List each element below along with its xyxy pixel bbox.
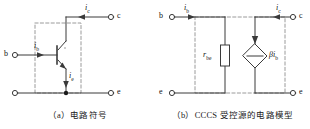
current-label-ie: ie <box>69 71 74 82</box>
current-label-ic: ic <box>85 3 90 14</box>
panel-b-caption: （b）CCCS 受控源的电路模型 <box>155 108 310 120</box>
emitter-junction-dot <box>64 91 68 95</box>
ib-arrow-icon <box>188 14 195 20</box>
ic-arrow-icon <box>273 14 280 20</box>
collector-slant <box>58 41 66 50</box>
current-label-ib: ib <box>184 3 189 14</box>
terminal-label-e: e <box>117 87 121 96</box>
terminal-b-node <box>169 14 174 19</box>
terminal-e-node <box>108 90 113 95</box>
terminal-c-node <box>108 14 113 19</box>
terminal-e-left-node <box>169 90 174 95</box>
terminal-b-node <box>12 52 17 57</box>
figure-root: b c e ib ic ie （a）电路符号 <box>0 0 310 129</box>
ie-arrow-icon <box>63 81 69 88</box>
terminal-c-node <box>290 14 295 19</box>
terminal-e-right-node <box>290 90 295 95</box>
ic-arrow-icon <box>78 14 85 20</box>
terminal-label-c: c <box>299 11 303 20</box>
panel-cccs-model: b c e e ib ic rbe βib （b）CCCS 受控源的电路模型 <box>155 0 310 129</box>
terminal-label-c: c <box>117 11 121 20</box>
dashed-enclosure <box>35 23 81 93</box>
current-label-ic: ic <box>276 3 281 14</box>
component-label-beta-ib: βib <box>269 50 278 61</box>
terminal-label-e-right: e <box>299 87 303 96</box>
resistor-rbe <box>221 45 230 66</box>
source-current-arrow-icon <box>252 36 258 44</box>
terminal-label-b: b <box>4 49 8 58</box>
component-label-rbe: rbe <box>203 50 211 61</box>
terminal-label-b: b <box>159 11 163 20</box>
emitter-left-node <box>12 90 17 95</box>
terminal-label-e-left: e <box>159 87 163 96</box>
ib-arrow-icon <box>37 52 44 58</box>
current-label-ib: ib <box>34 41 39 52</box>
panel-a-caption: （a）电路符号 <box>0 108 155 120</box>
panel-circuit-symbol: b c e ib ic ie （a）电路符号 <box>0 0 155 129</box>
